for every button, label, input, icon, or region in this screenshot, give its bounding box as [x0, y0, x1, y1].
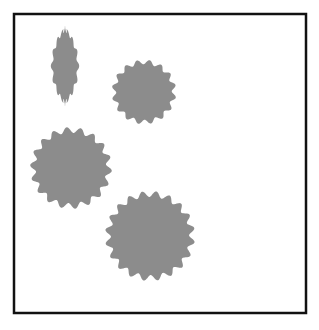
blob-figure-svg: [0, 0, 319, 330]
figure-canvas: [0, 0, 319, 330]
large-round-blob: [105, 191, 194, 280]
